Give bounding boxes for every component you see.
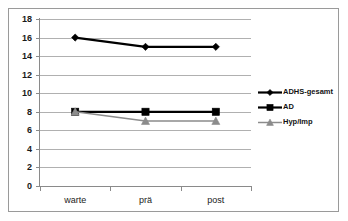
legend-item-label: ADHS-gesamt [283, 88, 333, 96]
series-adhs-gesamt [72, 34, 220, 50]
legend-item: AD [258, 99, 344, 114]
data-point-marker [212, 43, 219, 50]
diamond-marker-icon [258, 85, 282, 98]
data-point-marker [72, 34, 79, 41]
data-point-marker [142, 43, 149, 50]
legend-item-label: AD [283, 103, 294, 111]
chart-legend: ADHS-gesamtADHyp/Imp [258, 84, 344, 129]
data-point-marker [212, 108, 219, 115]
data-point-marker [142, 108, 149, 115]
legend-item: Hyp/Imp [258, 114, 344, 129]
legend-item: ADHS-gesamt [258, 84, 344, 99]
chart-screenshot: 024681012141618 wartepräpost ADHS-gesamt… [0, 0, 348, 221]
square-marker-icon [258, 100, 282, 113]
triangle-marker-icon [258, 115, 282, 128]
legend-item-label: Hyp/Imp [283, 118, 313, 126]
